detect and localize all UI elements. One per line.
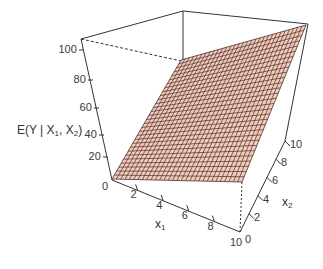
x2-tick-label: 8	[281, 157, 287, 168]
x2-tick-label: 10	[290, 139, 302, 150]
z-tick-label: 80	[74, 74, 86, 85]
x1-tick-label: 2	[131, 189, 137, 200]
z-tick-label: 100	[58, 44, 76, 55]
z-tick-label: 60	[80, 102, 92, 113]
x1-tick-label: 10	[230, 237, 242, 248]
x2-tick-label: 4	[263, 194, 269, 205]
x1-tick-label: 8	[207, 221, 213, 232]
x2-tick-label: 2	[254, 212, 260, 223]
x1-axis-label: x1	[155, 218, 165, 232]
z-tick-label: 40	[85, 129, 97, 140]
x2-tick-label: 6	[272, 175, 278, 186]
z-tick-label: 0	[102, 181, 108, 192]
z-tick-label: 20	[89, 151, 101, 162]
x2-tick-label: 0	[245, 234, 251, 245]
x1-tick-label: 6	[182, 210, 188, 221]
x1-tick-label: 4	[156, 200, 162, 211]
x2-axis-label: x2	[282, 196, 292, 210]
z-axis-label: E(Y | X1, X2)	[17, 124, 82, 138]
